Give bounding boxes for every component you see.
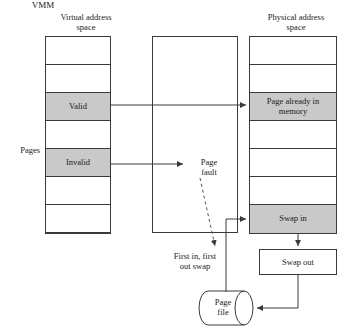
arrow-swap-out-to-page-file xyxy=(257,275,298,308)
arrow-page-file-to-swap-in xyxy=(226,219,246,292)
virtual-memory-paging-diagram: Virtual address space Physical address s… xyxy=(0,0,348,331)
arrow-page-fault-to-fifo-swap xyxy=(200,178,215,246)
diagram-connectors xyxy=(0,0,348,331)
